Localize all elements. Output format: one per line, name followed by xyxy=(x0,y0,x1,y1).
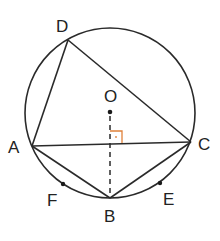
label-C: C xyxy=(198,135,210,154)
point-O xyxy=(108,110,113,115)
segment-AD xyxy=(32,40,68,146)
right-angle-dot xyxy=(115,136,117,138)
segment-BC xyxy=(110,142,191,198)
segment-AC xyxy=(32,142,191,146)
point-E xyxy=(158,181,162,185)
label-E: E xyxy=(163,190,174,209)
label-A: A xyxy=(8,138,20,157)
label-D: D xyxy=(56,17,68,36)
label-F: F xyxy=(47,191,57,210)
label-O: O xyxy=(104,87,117,106)
geometry-diagram: D O A C F E B xyxy=(0,0,220,241)
point-F xyxy=(61,182,65,186)
segment-AB xyxy=(32,146,110,198)
label-B: B xyxy=(104,207,115,226)
